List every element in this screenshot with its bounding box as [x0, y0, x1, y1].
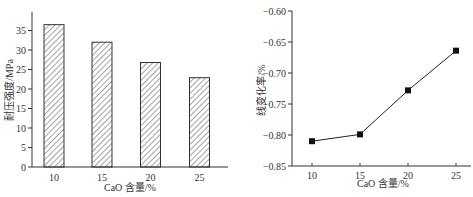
bar: [44, 25, 64, 167]
line-chart-x-title: CaO 含量/%: [357, 177, 409, 189]
bar: [141, 62, 161, 167]
bar-series: [44, 25, 210, 167]
x-tick-label: 25: [195, 172, 205, 183]
y-tick-label: 15: [16, 103, 26, 114]
line-chart: −0.85−0.80−0.75−0.70−0.65−0.60 10152025 …: [255, 6, 471, 190]
y-tick-label: −0.60: [263, 6, 286, 17]
data-point-marker: [405, 87, 411, 93]
series-line: [312, 51, 456, 142]
data-point-marker: [357, 131, 363, 137]
bar: [190, 78, 210, 167]
x-tick-label: 10: [49, 172, 59, 183]
bar-chart-y-axis: 05101520253035: [16, 12, 32, 173]
line-chart-y-axis: −0.85−0.80−0.75−0.70−0.65−0.60: [263, 6, 292, 172]
x-tick-label: 10: [307, 170, 317, 181]
bar-chart-x-axis: 10152025: [32, 167, 228, 183]
y-tick-label: 35: [16, 25, 26, 36]
y-tick-label: −0.80: [263, 130, 286, 141]
y-tick-label: −0.65: [263, 37, 286, 48]
y-tick-label: −0.85: [263, 161, 286, 172]
y-tick-label: 5: [21, 142, 26, 153]
y-tick-label: 0: [21, 162, 26, 173]
data-point-marker: [453, 48, 459, 54]
y-tick-label: 25: [16, 64, 26, 75]
figure: 05101520253035 10152025 CaO 含量/% 耐压强度/MP…: [0, 0, 473, 197]
bar: [92, 42, 112, 167]
bar-chart: 05101520253035 10152025 CaO 含量/% 耐压强度/MP…: [3, 12, 228, 193]
line-series: [309, 48, 459, 145]
y-tick-label: 10: [16, 123, 26, 134]
line-chart-y-title: 线变化率/%: [255, 64, 267, 115]
y-tick-label: 20: [16, 84, 26, 95]
x-tick-label: 25: [451, 170, 461, 181]
bar-chart-x-title: CaO 含量/%: [104, 181, 156, 193]
y-tick-label: 30: [16, 45, 26, 56]
data-point-marker: [309, 138, 315, 144]
bar-chart-y-title: 耐压强度/MPa: [3, 59, 15, 121]
